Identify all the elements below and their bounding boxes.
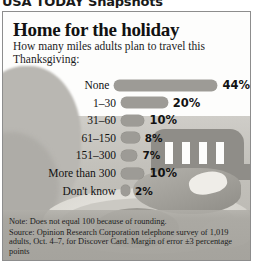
chart-bar-wrapper: 7% (121, 146, 250, 164)
page-title: Home for the holiday (13, 19, 179, 41)
chart-bar-wrapper: 10% (121, 111, 250, 129)
chart-bar (121, 115, 144, 126)
chart-row-label: 151–300 (3, 149, 121, 161)
chart-bar (121, 150, 137, 161)
chart-row: 31–6010% (3, 111, 250, 129)
chart-row: Don't know2% (3, 182, 250, 200)
footnote-source: Source: Opinion Research Corporation tel… (9, 228, 241, 256)
chart-bar (114, 80, 217, 91)
chart-bar-value: 8% (145, 132, 163, 144)
chart-bar-value: 7% (142, 149, 160, 161)
chart-row: More than 30010% (3, 164, 250, 182)
chart-row-label: More than 300 (3, 167, 121, 179)
chart-bar-value: 20% (173, 96, 201, 110)
chart-bar-wrapper: 8% (121, 129, 250, 147)
chart-row: 61–1508% (3, 129, 250, 147)
chart-row: 1–3020% (3, 94, 250, 112)
snapshot-panel: Home for the holiday How many miles adul… (2, 11, 251, 261)
chart-row-label: 61–150 (3, 132, 121, 144)
chart-bar-wrapper: 10% (121, 164, 250, 182)
usa-today-snapshots-banner: USA TODAY Snapshots (0, 0, 255, 8)
chart-bar (121, 97, 168, 108)
footnote-block: Note: Does not equal 100 because of roun… (9, 217, 241, 256)
chart-bar-wrapper: 44% (114, 76, 250, 94)
chart-row: None44% (3, 76, 250, 94)
chart-bar-wrapper: 2% (121, 182, 250, 200)
bar-chart: None44%1–3020%31–6010%61–1508%151–3007%M… (3, 76, 250, 202)
chart-bar (121, 132, 140, 143)
chart-subtitle: How many miles adults plan to travel thi… (13, 40, 228, 65)
chart-row-label: Don't know (3, 185, 121, 197)
chart-bar-wrapper: 20% (121, 94, 250, 112)
chart-bar-value: 10% (149, 113, 177, 127)
chart-bar (121, 168, 144, 179)
chart-bar-value: 44% (222, 78, 250, 92)
chart-row: 151–3007% (3, 146, 250, 164)
chart-bar-value: 2% (135, 185, 153, 197)
chart-bar-value: 10% (149, 166, 177, 180)
chart-row-label: 31–60 (3, 114, 121, 126)
chart-row-label: None (3, 79, 114, 91)
footnote-note: Note: Does not equal 100 because of roun… (9, 217, 241, 226)
chart-bar (121, 185, 130, 196)
chart-row-label: 1–30 (3, 97, 121, 109)
